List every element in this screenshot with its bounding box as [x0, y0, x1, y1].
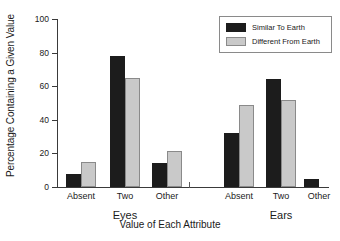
legend-item-similar-to-earth: Similar To Earth — [226, 22, 325, 33]
bar — [152, 163, 167, 187]
y-axis-title-text: Percentage Containing a Given Value — [6, 13, 17, 176]
bar — [304, 179, 319, 187]
x-axis-tick-label: Two — [273, 191, 290, 201]
x-axis-tick-label: Absent — [67, 191, 95, 201]
y-axis-tick-label: 0 — [44, 182, 49, 192]
y-axis-tick-mark — [52, 86, 57, 87]
x-axis-tick-label: Two — [117, 191, 134, 201]
y-axis-tick-mark — [52, 153, 57, 154]
y-axis-tick-mark — [52, 120, 57, 121]
y-axis-title: Percentage Containing a Given Value — [2, 0, 20, 190]
bar — [266, 79, 281, 187]
x-axis-tick-label: Other — [156, 191, 179, 201]
y-axis-tick-label: 40 — [40, 115, 49, 125]
y-axis-tick-label: 60 — [40, 81, 49, 91]
y-axis-tick-mark — [52, 53, 57, 54]
bar — [125, 78, 140, 187]
y-axis-tick-label: 80 — [40, 48, 49, 58]
bar — [66, 174, 81, 187]
y-axis-tick-label: 20 — [40, 148, 49, 158]
legend-swatch-different-from-earth — [226, 37, 246, 46]
x-axis-line — [57, 187, 329, 188]
y-axis-tick-mark — [52, 19, 57, 20]
x-axis-title: Value of Each Attribute — [0, 219, 340, 230]
y-axis-tick-label: 100 — [35, 14, 49, 24]
legend-label-different-from-earth: Different From Earth — [252, 37, 320, 46]
legend-label-similar-to-earth: Similar To Earth — [252, 23, 305, 32]
legend-swatch-similar-to-earth — [226, 23, 246, 32]
chart-figure: Percentage Containing a Given Value 0204… — [0, 0, 340, 241]
bar — [224, 133, 239, 187]
chart-legend: Similar To Earth Different From Earth — [219, 16, 332, 53]
bar — [81, 162, 96, 187]
legend-item-different-from-earth: Different From Earth — [226, 36, 325, 47]
bar — [281, 100, 296, 187]
bar — [167, 151, 182, 187]
group-separator-tick — [189, 182, 190, 188]
x-axis-tick-label: Absent — [225, 191, 253, 201]
y-axis-line — [57, 19, 58, 187]
x-axis-tick-label: Other — [308, 191, 331, 201]
y-axis-tick-mark — [52, 187, 57, 188]
bar — [239, 105, 254, 187]
bar — [110, 56, 125, 187]
